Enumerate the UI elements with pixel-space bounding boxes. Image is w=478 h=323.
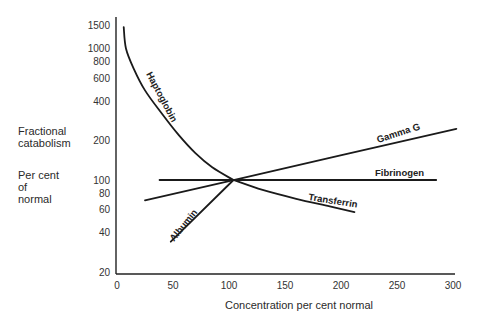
- y-tick-label: 60: [99, 204, 111, 215]
- y-tick-label: 100: [93, 175, 110, 186]
- label-albumin: Albumin: [167, 207, 200, 244]
- curve-labels: HaptoglobinTransferrinAlbuminGamma GFibr…: [144, 70, 424, 243]
- y-tick-label: 400: [93, 96, 110, 107]
- y-tick-label: 1000: [88, 43, 111, 54]
- label-fibrinogen: Fibrinogen: [375, 167, 424, 178]
- y-tick-label: 40: [99, 227, 111, 238]
- x-tick-label: 250: [389, 280, 406, 291]
- x-tick-label: 50: [167, 280, 179, 291]
- x-tick-label: 100: [221, 280, 238, 291]
- x-tick-label: 0: [114, 280, 120, 291]
- y-tick-label: 800: [93, 56, 110, 67]
- y-tick-label: 600: [93, 73, 110, 84]
- x-tick-label: 300: [445, 280, 462, 291]
- y-tick-label: 20: [99, 267, 111, 278]
- tick-labels: 2040608010020040060080010001500050100150…: [88, 20, 462, 291]
- series-haptoglobin: [124, 27, 234, 180]
- x-tick-label: 150: [277, 280, 294, 291]
- y-tick-label: 200: [93, 135, 110, 146]
- series-gamma-g: [145, 129, 456, 201]
- chart-canvas: 2040608010020040060080010001500050100150…: [0, 0, 478, 323]
- y-tick-label: 80: [99, 188, 111, 199]
- x-tick-label: 200: [333, 280, 350, 291]
- y-tick-label: 1500: [88, 20, 111, 31]
